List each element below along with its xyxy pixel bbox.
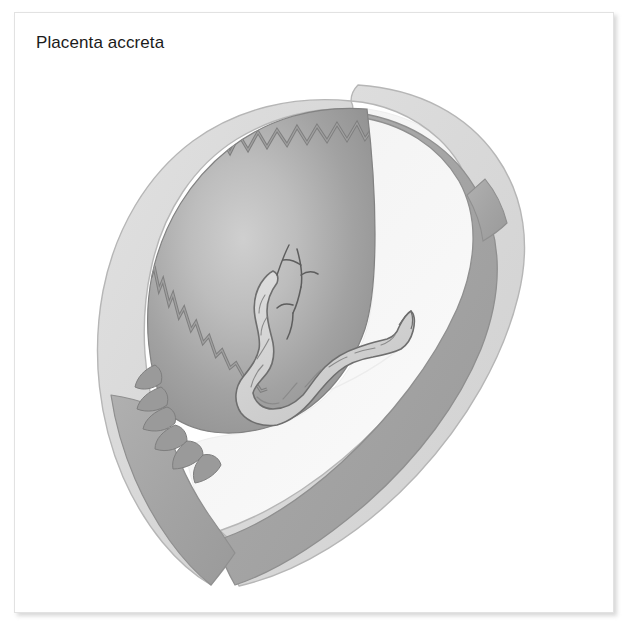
figure-frame: Placenta accreta — [14, 12, 614, 613]
placenta-accreta-illustration — [15, 13, 615, 614]
